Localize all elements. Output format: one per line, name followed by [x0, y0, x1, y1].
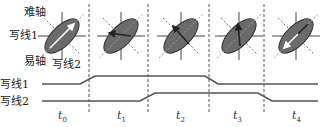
mram-write-timing-diagram: 难轴 写线1 易轴 写线2 写线1 写线2 t0 t1 t2 t3 t4	[0, 0, 328, 127]
mtj-cell-t2	[157, 12, 205, 60]
write-line-1-top-label: 写线1	[9, 30, 38, 41]
time-dividers	[89, 4, 264, 112]
time-label-t3: t3	[233, 110, 242, 124]
easy-axis-label: 易轴	[24, 56, 46, 67]
diagram-canvas	[0, 0, 328, 127]
time-label-t4: t4	[292, 110, 301, 124]
time-label-t0: t0	[58, 110, 67, 124]
write-line-2-top-label: 写线2	[52, 59, 81, 70]
time-label-t1: t1	[117, 110, 126, 124]
write-line-1-wave-label: 写线1	[0, 79, 29, 90]
write-line-1-waveform	[42, 76, 318, 84]
time-label-t2: t2	[176, 110, 185, 124]
mtj-cell-t1	[97, 12, 145, 60]
mtj-cell-t3	[215, 12, 263, 60]
mtj-cell-t4	[272, 12, 320, 60]
write-line-2-wave-label: 写线2	[0, 96, 29, 107]
hard-axis-label: 难轴	[24, 7, 46, 18]
mtj-cell-t0	[38, 12, 86, 60]
write-line-2-waveform	[42, 93, 318, 101]
